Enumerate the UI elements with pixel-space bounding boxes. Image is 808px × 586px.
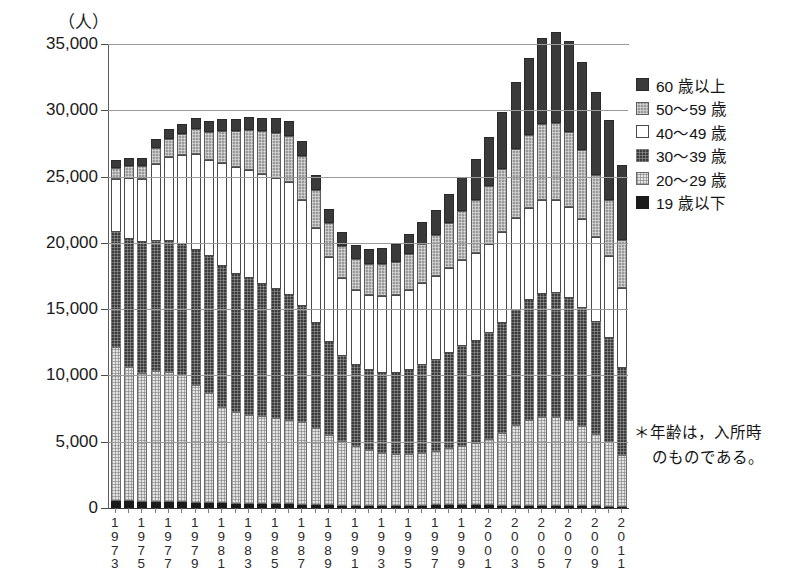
bar-segment-s-40 [431, 276, 441, 360]
x-axis-tick-mark [528, 508, 529, 513]
bar-segment-s-60 [271, 118, 281, 133]
x-axis-tick-mark [208, 508, 209, 513]
legend-label: 19 歳以下 [656, 191, 726, 213]
x-axis-label-1973: 1973 [107, 516, 123, 571]
bar-segment-s-20 [617, 455, 627, 507]
bar-segment-s-30 [164, 241, 174, 372]
bar-2001 [484, 137, 494, 509]
bar-segment-s-50 [231, 131, 241, 167]
bar-1978 [177, 124, 187, 509]
x-axis-label-1989: 1989 [320, 516, 336, 571]
bar-1996 [417, 222, 427, 509]
bar-segment-s-60 [284, 121, 294, 136]
bar-segment-s-30 [244, 278, 254, 415]
bar-segment-s-30 [137, 242, 147, 373]
x-axis-label-2005: 2005 [533, 516, 549, 571]
x-axis-tick-mark [128, 508, 129, 513]
bar-segment-s-50 [164, 139, 174, 158]
bar-segment-s-60 [324, 209, 334, 223]
plot-area [108, 44, 629, 509]
bar-segment-s-60 [217, 119, 227, 131]
bar-2009 [591, 92, 601, 509]
bar-segment-s-50 [391, 262, 401, 295]
bar-segment-s-30 [604, 338, 614, 441]
bar-segment-s-60 [364, 249, 374, 264]
bar-segment-s-60 [297, 141, 307, 156]
bar-segment-s-40 [164, 157, 174, 241]
bar-1976 [151, 139, 161, 509]
bar-2002 [497, 112, 507, 509]
bar-segment-s-40 [297, 200, 307, 306]
bar-segment-s-40 [377, 296, 387, 373]
bars-container [109, 45, 629, 509]
bar-segment-s-40 [404, 290, 414, 371]
bar-segment-s-50 [484, 186, 494, 244]
x-axis-tick-mark [621, 508, 622, 513]
x-axis-tick-mark [488, 508, 489, 513]
x-axis-tick-mark [261, 508, 262, 513]
bar-segment-s-30 [471, 341, 481, 443]
bar-segment-s-50 [297, 156, 307, 200]
x-axis-label-1975: 1975 [133, 516, 149, 571]
bar-1988 [311, 175, 321, 509]
bar-1980 [204, 121, 214, 509]
x-axis-tick-mark [608, 508, 609, 513]
bar-segment-s-40 [617, 288, 627, 368]
bar-segment-s-20 [337, 441, 347, 506]
x-axis-tick-mark [181, 508, 182, 513]
bar-segment-s-50 [244, 130, 254, 170]
x-axis-label-2003: 2003 [507, 516, 523, 571]
bar-segment-s-50 [204, 132, 214, 160]
y-axis-tick-mark [101, 309, 108, 310]
bar-segment-s-40 [217, 163, 227, 266]
bar-segment-s-40 [364, 295, 374, 371]
y-axis-tick-label: 10,000 [12, 365, 98, 385]
bar-segment-s-30 [257, 284, 267, 417]
bar-segment-s-40 [551, 200, 561, 293]
x-axis-tick-mark [288, 508, 289, 513]
bar-segment-s-60 [244, 117, 254, 130]
legend-item-s-40: 40～49 歳 [636, 123, 727, 140]
bar-segment-s-50 [497, 169, 507, 233]
bar-segment-s-20 [231, 412, 241, 503]
x-axis-label-1985: 1985 [267, 516, 283, 571]
bar-segment-s-30 [417, 365, 427, 452]
bar-segment-s-40 [604, 256, 614, 338]
bar-segment-s-40 [337, 278, 347, 356]
bar-segment-s-50 [404, 254, 414, 290]
bar-2006 [551, 32, 561, 509]
bar-segment-s-20 [324, 435, 334, 505]
y-axis-tick-label: 0 [12, 498, 98, 518]
y-axis-tick-mark [101, 375, 108, 376]
x-axis-tick-mark [421, 508, 422, 513]
bar-segment-s-20 [604, 442, 614, 507]
bar-segment-s-40 [457, 260, 467, 346]
bar-segment-s-20 [124, 367, 134, 501]
footnote: ＊年齢は，入所時 のものである。 [634, 420, 764, 470]
legend-item-s-60: 60 歳以上 [636, 76, 727, 93]
bar-segment-s-20 [404, 454, 414, 506]
bar-segment-s-20 [244, 415, 254, 504]
bar-segment-s-20 [471, 443, 481, 505]
x-axis-tick-mark [315, 508, 316, 513]
bar-segment-s-50 [284, 136, 294, 182]
x-axis-tick-mark [408, 508, 409, 513]
bar-segment-s-30 [551, 293, 561, 418]
bar-segment-s-20 [551, 417, 561, 506]
x-axis-label-2011: 2011 [613, 516, 629, 571]
x-axis-tick-mark [221, 508, 222, 513]
bar-segment-s-20 [484, 439, 494, 505]
bar-segment-s-20 [377, 453, 387, 506]
bar-segment-s-20 [564, 420, 574, 506]
bar-segment-s-50 [511, 149, 521, 218]
x-axis-tick-mark [328, 508, 329, 513]
bar-segment-s-30 [484, 333, 494, 439]
bar-segment-s-50 [537, 124, 547, 200]
x-axis-label-2007: 2007 [560, 516, 576, 571]
bar-segment-s-30 [351, 365, 361, 446]
bar-2000 [471, 159, 481, 509]
bar-segment-s-40 [244, 170, 254, 279]
legend-label: 20～29 歳 [656, 168, 727, 190]
bar-segment-s-40 [351, 290, 361, 366]
x-axis-tick-mark [195, 508, 196, 513]
